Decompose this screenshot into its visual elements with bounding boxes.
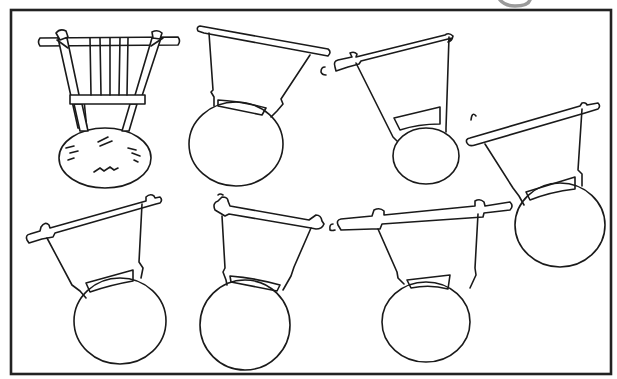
- detailed-harp: [39, 30, 180, 188]
- harp-outline-4: [26, 195, 166, 364]
- harp-outline-5: [200, 197, 324, 370]
- harp-outline-1: [189, 26, 330, 186]
- harp-outline-2: [334, 34, 459, 184]
- fragment-mark: [218, 194, 223, 195]
- fragment-mark: [471, 114, 476, 120]
- harp-outline-3: [466, 103, 605, 267]
- harp-illustration: [0, 0, 617, 379]
- harp-outline-6: [337, 200, 512, 362]
- fragment-mark: [330, 224, 335, 231]
- grey-corner-mark: [500, 0, 530, 6]
- fragment-mark: [321, 67, 326, 75]
